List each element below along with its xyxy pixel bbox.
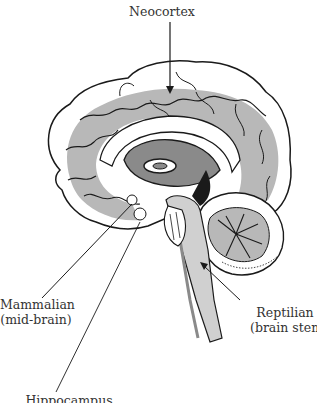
label-mammalian: Mammalian (mid-brain) (0, 297, 72, 327)
label-reptilian-line2: (brain stem) (250, 320, 317, 335)
label-hippocampus: Hippocampus (24, 393, 114, 403)
label-neocortex: Neocortex (112, 4, 212, 19)
label-mammalian-line1: Mammalian (0, 297, 72, 312)
label-reptilian-line1: Reptilian (250, 305, 317, 320)
label-reptilian: Reptilian (brain stem) (250, 305, 317, 335)
label-mammalian-line2: (mid-brain) (0, 312, 72, 327)
brain-diagram (0, 0, 317, 403)
